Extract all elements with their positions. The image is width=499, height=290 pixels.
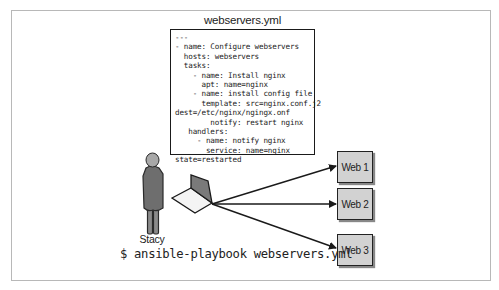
arrow-to-web1 <box>212 166 336 204</box>
person-label: Stacy <box>132 233 172 245</box>
server-label: Web 2 <box>341 199 368 210</box>
arrow-to-web3 <box>212 204 336 248</box>
command-line: $ ansible-playbook webservers.yml <box>120 247 352 261</box>
server-label: Web 1 <box>341 162 368 173</box>
person-icon <box>143 153 163 234</box>
laptop-icon <box>172 175 212 213</box>
server-web2: Web 2 <box>337 188 373 220</box>
server-web1: Web 1 <box>337 151 373 183</box>
